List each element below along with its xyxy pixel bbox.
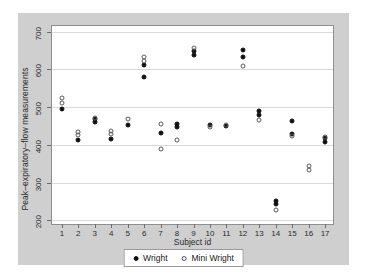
gridline <box>52 69 333 70</box>
x-tick-mark <box>62 224 63 228</box>
data-point-hollow <box>306 167 311 172</box>
data-point-hollow <box>207 124 212 129</box>
x-tick-mark <box>226 224 227 228</box>
x-tick-mark <box>78 224 79 228</box>
legend-label-wright: Wright <box>143 253 167 263</box>
data-point-filled <box>142 74 147 79</box>
chart-figure: Peak–expiratory–flow measurements 200300… <box>18 13 349 265</box>
legend-item-mini-wright: Mini Wright <box>182 253 234 263</box>
x-tick-mark <box>259 224 260 228</box>
plot-area: 200300400500600700 123456789101112131415… <box>51 25 334 225</box>
data-point-filled <box>290 119 295 124</box>
data-point-hollow <box>76 130 81 135</box>
legend-item-wright: Wright <box>133 253 167 263</box>
data-point-filled <box>125 123 130 128</box>
gridline <box>52 107 333 108</box>
x-tick-mark <box>276 224 277 228</box>
data-point-hollow <box>92 115 97 120</box>
data-point-hollow <box>273 207 278 212</box>
data-point-filled <box>158 130 163 135</box>
data-point-filled <box>240 54 245 59</box>
x-tick-mark <box>161 224 162 228</box>
y-tick-mark <box>47 145 51 146</box>
y-tick-mark <box>47 183 51 184</box>
data-point-hollow <box>257 117 262 122</box>
gridline <box>52 145 333 146</box>
legend-label-mini-wright: Mini Wright <box>192 253 234 263</box>
data-point-filled <box>323 139 328 144</box>
data-point-filled <box>76 138 81 143</box>
data-point-hollow <box>240 64 245 69</box>
gridline <box>52 183 333 184</box>
data-point-hollow <box>59 95 64 100</box>
data-point-hollow <box>59 100 64 105</box>
data-point-filled <box>59 107 64 112</box>
y-tick-mark <box>47 32 51 33</box>
data-point-hollow <box>290 133 295 138</box>
y-tick-mark <box>47 107 51 108</box>
data-point-filled <box>240 47 245 52</box>
data-point-hollow <box>109 128 114 133</box>
filled-circle-icon <box>133 256 138 261</box>
data-point-filled <box>109 136 114 141</box>
x-tick-mark <box>144 224 145 228</box>
x-tick-mark <box>128 224 129 228</box>
gridline <box>52 220 333 221</box>
gridline <box>52 32 333 33</box>
data-point-hollow <box>191 46 196 51</box>
x-tick-mark <box>111 224 112 228</box>
y-tick-mark <box>47 220 51 221</box>
x-tick-mark <box>95 224 96 228</box>
x-tick-mark <box>309 224 310 228</box>
data-point-hollow <box>158 121 163 126</box>
x-tick-mark <box>292 224 293 228</box>
data-point-filled <box>273 201 278 206</box>
x-tick-mark <box>243 224 244 228</box>
data-point-hollow <box>158 146 163 151</box>
data-point-hollow <box>323 134 328 139</box>
hollow-circle-icon <box>182 256 187 261</box>
data-point-hollow <box>142 55 147 60</box>
y-tick-mark <box>47 69 51 70</box>
x-tick-mark <box>177 224 178 228</box>
data-point-filled <box>175 124 180 129</box>
data-point-filled <box>191 53 196 58</box>
data-point-hollow <box>125 117 130 122</box>
chart-legend: Wright Mini Wright <box>123 249 244 267</box>
x-tick-mark <box>194 224 195 228</box>
x-tick-mark <box>210 224 211 228</box>
x-axis-label: Subject id <box>51 237 334 247</box>
data-point-hollow <box>175 138 180 143</box>
y-axis-label: Peak–expiratory–flow measurements <box>20 67 30 210</box>
x-tick-mark <box>325 224 326 228</box>
data-point-hollow <box>224 123 229 128</box>
